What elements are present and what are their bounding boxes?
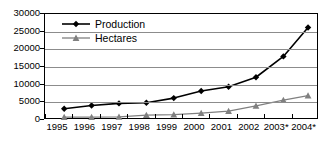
x-tick-mark (127, 114, 128, 118)
x-tick-label: 1998 (129, 122, 150, 132)
x-tick-label: 1997 (101, 122, 122, 132)
x-tick-label: 2002 (238, 122, 259, 132)
legend-label: Production (95, 19, 145, 30)
y-tick-label: 5000 (19, 97, 40, 107)
y-tick-mark (40, 119, 44, 120)
gridline (45, 85, 317, 86)
x-tick-label: 2001 (211, 122, 232, 132)
gridline (45, 49, 317, 50)
x-tick-mark (292, 114, 293, 118)
gridline (45, 67, 317, 68)
diamond-marker (61, 105, 67, 111)
triangle-marker (305, 92, 312, 98)
gridline (45, 32, 317, 33)
diamond-marker (73, 21, 79, 27)
y-tick-label: 20000 (14, 44, 40, 54)
x-tick-label: 1995 (46, 122, 67, 132)
x-axis: 199519961997199819992000200120022003*200… (44, 122, 318, 138)
y-axis: 300002500020000150001000050000 (0, 13, 40, 119)
legend-item-production: Production (61, 17, 181, 31)
x-tick-label: 1996 (74, 122, 95, 132)
x-tick-mark (182, 114, 183, 118)
x-tick-mark (155, 114, 156, 118)
x-tick-mark (209, 114, 210, 118)
triangle-icon (61, 32, 91, 44)
x-tick-mark (72, 114, 73, 118)
plot-area: ProductionHectares (44, 13, 318, 119)
x-tick-mark (45, 114, 46, 118)
diamond-icon (61, 18, 91, 30)
legend-item-hectares: Hectares (61, 31, 181, 45)
diamond-marker (116, 100, 122, 106)
x-tick-mark (100, 114, 101, 118)
x-tick-label: 2003* (264, 122, 289, 132)
x-tick-label: 2000 (183, 122, 204, 132)
x-tick-mark (264, 114, 265, 118)
diamond-marker (171, 95, 177, 101)
y-tick-label: 10000 (14, 79, 40, 89)
legend-label: Hectares (95, 33, 137, 44)
x-tick-mark (237, 114, 238, 118)
x-tick-label: 1999 (156, 122, 177, 132)
chart-figure: 300002500020000150001000050000 Productio… (0, 0, 328, 145)
diamond-marker (198, 88, 204, 94)
x-tick-label: 2004* (291, 122, 316, 132)
y-tick-label: 15000 (14, 61, 40, 71)
gridline (45, 102, 317, 103)
y-tick-label: 25000 (14, 26, 40, 36)
y-tick-label: 30000 (14, 8, 40, 18)
